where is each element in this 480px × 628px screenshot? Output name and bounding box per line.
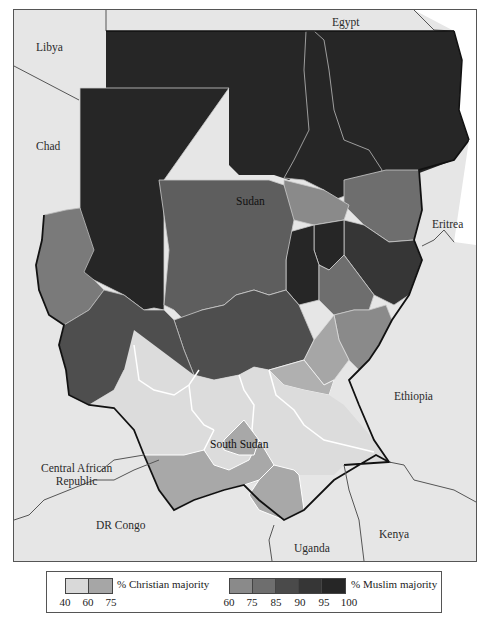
tick-muslim-75: 75 [247,596,258,608]
legend-christian-swatches [65,578,113,594]
label-sudan: Sudan [236,195,265,208]
swatch-muslim-85-90 [276,579,299,593]
tick-muslim-95: 95 [319,596,330,608]
legend-muslim-swatches [229,578,346,594]
label-dr-congo: DR Congo [96,519,146,532]
label-car-line2: Republic [41,475,112,488]
tick-muslim-60: 60 [224,596,235,608]
swatch-muslim-90-95 [299,579,322,593]
label-ethiopia: Ethiopia [394,390,433,403]
tick-christian-40: 40 [60,596,71,608]
tick-christian-75: 75 [106,596,117,608]
label-kenya: Kenya [379,528,409,541]
tick-muslim-90: 90 [295,596,306,608]
swatch-muslim-60-75 [230,579,253,593]
label-chad: Chad [36,140,60,153]
legend-muslim-title: % Muslim majority [351,578,437,590]
tick-muslim-100: 100 [341,596,358,608]
tick-christian-60: 60 [83,596,94,608]
swatch-christian-60-75 [89,579,112,593]
legend: % Christian majority 40 60 75 % Muslim m… [46,571,442,613]
tick-muslim-85: 85 [271,596,282,608]
label-egypt: Egypt [332,16,359,29]
legend-christian-title: % Christian majority [117,578,209,590]
label-eritrea: Eritrea [432,218,463,231]
label-central-african-republic: Central African Republic [41,462,112,488]
swatch-muslim-95-100 [322,579,345,593]
label-south-sudan: South Sudan [210,438,268,451]
swatch-christian-40-60 [66,579,89,593]
map-frame: Libya Egypt Chad Sudan Eritrea Ethiopia … [13,9,477,562]
label-car-line1: Central African [41,462,112,475]
label-uganda: Uganda [294,542,330,555]
label-libya: Libya [36,41,63,54]
swatch-muslim-75-85 [253,579,276,593]
